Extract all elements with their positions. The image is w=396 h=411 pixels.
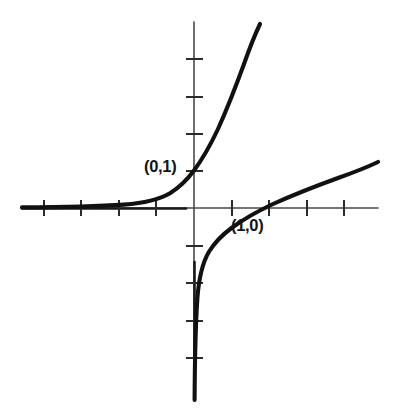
exponential-curve	[22, 24, 260, 207]
plot-canvas	[0, 0, 396, 411]
point-label-1-0: (1,0)	[231, 216, 263, 235]
axes-group	[22, 22, 378, 400]
graph-figure: (0,1) (1,0)	[0, 0, 396, 411]
logarithm-curve	[195, 162, 378, 400]
point-label-0-1: (0,1)	[144, 157, 176, 176]
